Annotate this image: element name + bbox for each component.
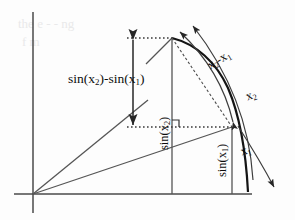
tangent-segment xyxy=(146,38,172,64)
diagram-svg xyxy=(0,0,295,220)
right-angle-marker xyxy=(172,120,179,127)
ray-to-lower-point xyxy=(33,127,232,194)
ray-to-upper-point xyxy=(33,100,148,194)
label-sin-x2: sin(x2) xyxy=(158,117,173,150)
label-sine-difference: sin(x2)-sin(x1) xyxy=(68,72,144,87)
label-sin-x1: sin(x1) xyxy=(216,144,231,177)
figure-canvas: the e - - ng f m xyxy=(0,0,295,220)
